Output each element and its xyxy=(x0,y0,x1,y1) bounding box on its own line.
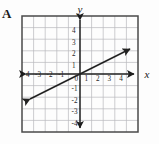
y-tick-label: 1 xyxy=(72,62,76,70)
y-tick-label: -1 xyxy=(72,85,78,93)
x-tick-label: 2 xyxy=(96,75,100,83)
x-tick-label: -4 xyxy=(24,71,30,79)
x-tick-label: -3 xyxy=(35,71,41,79)
x-tick-label: -2 xyxy=(47,71,53,79)
y-tick-label: 4 xyxy=(72,27,76,35)
x-axis-label: x xyxy=(144,68,150,80)
y-tick-label: 2 xyxy=(72,50,76,58)
y-tick-label: 3 xyxy=(72,39,76,47)
x-tick-label: -1 xyxy=(58,71,64,79)
y-tick-label: -3 xyxy=(72,108,78,116)
x-tick-label: 3 xyxy=(108,75,112,83)
x-tick-label: 1 xyxy=(84,75,88,83)
y-tick-label: -4 xyxy=(72,120,78,128)
y-axis-label: y xyxy=(77,3,83,15)
y-tick-label: -2 xyxy=(72,97,78,105)
graph-figure: A xyxy=(0,0,159,144)
coordinate-plane: -4 -3 -2 -1 0 1 2 3 4 4 3 2 1 -1 -2 -3 -… xyxy=(0,0,159,144)
x-tick-label: 4 xyxy=(119,75,123,83)
origin-label: 0 xyxy=(74,75,78,83)
